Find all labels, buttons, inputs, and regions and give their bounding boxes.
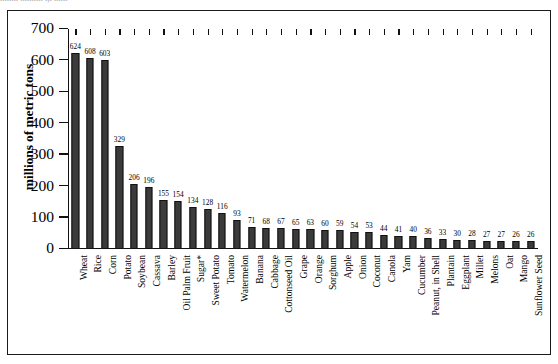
bar-slot: 206 xyxy=(127,29,142,249)
bar xyxy=(86,58,93,249)
y-tick-700: 700 xyxy=(59,28,68,29)
x-category-label: Potato xyxy=(123,255,132,280)
bar-value-label: 53 xyxy=(365,222,372,230)
bar xyxy=(248,227,255,249)
x-tick xyxy=(398,29,399,35)
y-tick-label-300: 300 xyxy=(31,145,54,163)
bar xyxy=(454,240,461,249)
bar xyxy=(292,229,299,249)
bar-slot: 128 xyxy=(200,29,215,249)
bar-slot: 40 xyxy=(406,29,421,249)
bar-value-label: 128 xyxy=(202,199,213,207)
x-tick xyxy=(413,29,414,35)
y-tick-500: 500 xyxy=(59,91,68,92)
bar-value-label: 27 xyxy=(483,231,490,239)
bar xyxy=(204,209,211,249)
bar-value-label: 93 xyxy=(233,210,240,218)
bar xyxy=(424,238,431,249)
bar-series: 6246086033292061961551541341281169371686… xyxy=(68,29,538,249)
x-category-label: Corn xyxy=(108,255,117,274)
x-category-label: Tomato xyxy=(226,255,235,284)
bar xyxy=(439,239,446,249)
bar-slot: 59 xyxy=(332,29,347,249)
bar-slot: 155 xyxy=(156,29,171,249)
bar-slot: 93 xyxy=(230,29,245,249)
x-category-label: Apple xyxy=(343,255,352,278)
bar-slot: 134 xyxy=(186,29,201,249)
x-tick xyxy=(457,29,458,35)
bar-value-label: 41 xyxy=(395,226,402,234)
bar-value-label: 27 xyxy=(498,231,505,239)
bar xyxy=(145,187,152,249)
bar-value-label: 63 xyxy=(307,219,314,227)
bar-slot: 27 xyxy=(479,29,494,249)
bar-slot: 603 xyxy=(97,29,112,249)
x-category-label: Oil Palm Fruit xyxy=(182,255,191,310)
x-tick xyxy=(340,29,341,35)
bar xyxy=(468,240,475,249)
bar-value-label: 30 xyxy=(454,230,461,238)
bar-slot: 44 xyxy=(376,29,391,249)
bar xyxy=(483,241,490,249)
y-tick-label-400: 400 xyxy=(31,114,54,132)
bar-slot: 68 xyxy=(259,29,274,249)
bar xyxy=(512,241,519,249)
x-category-label: Coconut xyxy=(372,255,381,288)
bar-value-label: 26 xyxy=(527,231,534,239)
x-tick xyxy=(472,29,473,35)
y-tick-label-700: 700 xyxy=(31,19,54,37)
x-tick xyxy=(281,29,282,35)
x-tick xyxy=(531,29,532,35)
bar-value-label: 67 xyxy=(277,218,284,226)
bar xyxy=(527,241,534,249)
bar-value-label: 44 xyxy=(380,225,387,233)
bar xyxy=(380,235,387,249)
bar-value-label: 68 xyxy=(263,218,270,226)
x-tick xyxy=(501,29,502,35)
bar-slot: 67 xyxy=(274,29,289,249)
y-tick-label-200: 200 xyxy=(31,177,54,195)
bar-value-label: 154 xyxy=(173,191,184,199)
bar-value-label: 60 xyxy=(321,220,328,228)
bar xyxy=(336,230,343,249)
bar-slot: 30 xyxy=(450,29,465,249)
bar xyxy=(175,201,182,249)
x-category-label: Millet xyxy=(475,255,484,278)
x-category-label: Sorghum xyxy=(328,255,337,290)
bar xyxy=(321,230,328,249)
x-tick xyxy=(105,29,106,35)
x-category-label: Peanut, in Shell xyxy=(431,255,440,316)
x-tick xyxy=(354,29,355,35)
cut-off-header-sliver: ........ .......... .,. ...... xyxy=(0,0,558,9)
bar xyxy=(160,200,167,249)
bar-value-label: 329 xyxy=(114,136,125,144)
bar-value-label: 26 xyxy=(512,231,519,239)
y-tick-400: 400 xyxy=(59,122,68,123)
x-category-label: Oat xyxy=(505,255,514,269)
bar-value-label: 196 xyxy=(143,177,154,185)
x-category-label: Wheat xyxy=(79,255,88,280)
x-tick xyxy=(163,29,164,35)
bar-value-label: 603 xyxy=(99,50,110,58)
x-tick xyxy=(134,29,135,35)
bar-value-label: 155 xyxy=(158,190,169,198)
x-tick xyxy=(149,29,150,35)
x-category-label: Melons xyxy=(490,255,499,284)
x-category-label: Rice xyxy=(93,255,102,273)
y-tick-label-100: 100 xyxy=(31,208,54,226)
y-tick-label-600: 600 xyxy=(31,51,54,69)
bar-slot: 26 xyxy=(523,29,538,249)
x-tick xyxy=(237,29,238,35)
x-tick xyxy=(310,29,311,35)
x-tick xyxy=(208,29,209,35)
bar xyxy=(189,207,196,249)
x-tick xyxy=(325,29,326,35)
bar xyxy=(498,241,505,249)
bar-slot: 26 xyxy=(509,29,524,249)
bar xyxy=(410,236,417,249)
plot-area: 0100200300400500600700 62460860332920619… xyxy=(68,29,538,249)
x-category-label: Sugar* xyxy=(196,255,205,282)
bar-slot: 65 xyxy=(288,29,303,249)
x-tick xyxy=(178,29,179,35)
bar xyxy=(219,213,226,249)
